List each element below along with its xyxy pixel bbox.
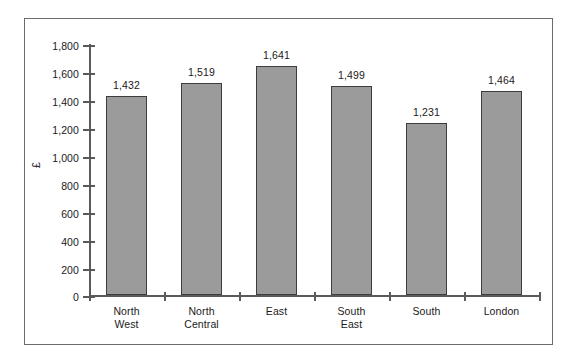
- x-category-line: South: [316, 305, 387, 318]
- x-category-line: West: [91, 318, 162, 331]
- x-tick-mark: [389, 292, 391, 301]
- x-tick-mark: [239, 292, 241, 301]
- x-category-line: London: [466, 305, 537, 318]
- y-tick-mark: [83, 129, 95, 131]
- y-tick-label-container: 0: [33, 292, 79, 302]
- y-tick-label: 0: [35, 292, 79, 302]
- chart-figure: £ 1,800 1,600 1,400 1,200 1,000 800 600: [0, 0, 577, 363]
- x-category-line: Central: [166, 318, 237, 331]
- y-tick-mark: [83, 101, 95, 103]
- x-category-line: North: [166, 305, 237, 318]
- y-tick-mark: [83, 269, 95, 271]
- x-tick-mark: [89, 292, 91, 301]
- x-category-label-east: East: [241, 305, 312, 318]
- y-tick-label: 1,600: [35, 69, 79, 79]
- x-category-label-north-central: North Central: [166, 305, 237, 330]
- x-category-label-london: London: [466, 305, 537, 318]
- bar-north-central[interactable]: [181, 83, 222, 295]
- bar-south-east[interactable]: [331, 86, 372, 295]
- x-category-label-south: South: [391, 305, 462, 318]
- y-tick-mark: [83, 185, 95, 187]
- y-tick-label: 800: [35, 181, 79, 191]
- x-category-label-south-east: South East: [316, 305, 387, 330]
- y-tick-label-container: 1,400: [33, 97, 79, 107]
- y-tick-label-container: 600: [33, 209, 79, 219]
- y-tick-mark: [83, 157, 95, 159]
- y-axis-line: [89, 44, 91, 297]
- plot-area: £ 1,800 1,600 1,400 1,200 1,000 800 600: [0, 0, 577, 363]
- x-tick-mark: [464, 292, 466, 301]
- y-tick-mark: [83, 45, 95, 47]
- bar-value-label: 1,231: [396, 107, 457, 118]
- x-category-line: East: [316, 318, 387, 331]
- y-tick-label: 1,000: [35, 153, 79, 163]
- x-tick-mark: [539, 292, 541, 301]
- x-category-label-north-west: North West: [91, 305, 162, 330]
- y-tick-label-container: 200: [33, 265, 79, 275]
- bar-east[interactable]: [256, 66, 297, 295]
- x-tick-mark: [314, 292, 316, 301]
- y-tick-mark: [83, 241, 95, 243]
- y-tick-label: 1,400: [35, 97, 79, 107]
- y-tick-label-container: 400: [33, 237, 79, 247]
- bar-value-label: 1,432: [96, 80, 157, 91]
- x-category-line: South: [391, 305, 462, 318]
- y-tick-label-container: 1,200: [33, 125, 79, 135]
- y-tick-label: 600: [35, 209, 79, 219]
- bar-north-west[interactable]: [106, 96, 147, 295]
- x-category-line: East: [241, 305, 312, 318]
- y-tick-label: 400: [35, 237, 79, 247]
- y-tick-label-container: 1,800: [33, 41, 79, 51]
- bar-value-label: 1,519: [171, 67, 232, 78]
- bar-value-label: 1,464: [471, 75, 532, 86]
- bar-value-label: 1,499: [321, 70, 382, 81]
- y-tick-label: 1,800: [35, 41, 79, 51]
- y-tick-label: 1,200: [35, 125, 79, 135]
- y-tick-mark: [83, 73, 95, 75]
- y-tick-label-container: 1,000: [33, 153, 79, 163]
- y-tick-label: 200: [35, 265, 79, 275]
- x-category-line: North: [91, 305, 162, 318]
- y-tick-mark: [83, 213, 95, 215]
- bar-london[interactable]: [481, 91, 522, 295]
- y-tick-label-container: 800: [33, 181, 79, 191]
- x-tick-mark: [164, 292, 166, 301]
- y-axis-title: £: [30, 162, 42, 168]
- bar-value-label: 1,641: [246, 50, 307, 61]
- y-tick-label-container: 1,600: [33, 69, 79, 79]
- bar-south[interactable]: [406, 123, 447, 295]
